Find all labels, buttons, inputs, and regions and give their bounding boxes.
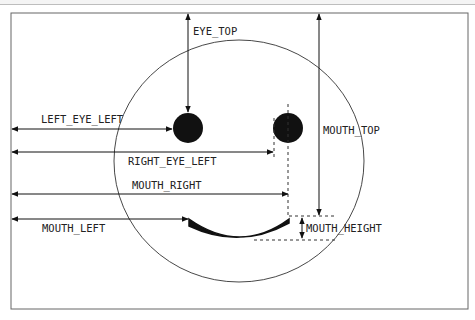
smiley-diagram: EYE_TOP MOUTH_TOP LEFT_EYE_LEFT RIGHT_EY…: [0, 0, 475, 320]
mouth-left-label: MOUTH_LEFT: [42, 222, 106, 235]
left-eye-left-label: LEFT_EYE_LEFT: [41, 113, 124, 126]
frame-box: [11, 13, 468, 309]
eye-top-label: EYE_TOP: [193, 25, 237, 38]
mouth-right-label: MOUTH_RIGHT: [132, 179, 202, 192]
mouth-top-label: MOUTH_TOP: [323, 124, 380, 137]
right-eye-left-label: RIGHT_EYE_LEFT: [128, 155, 217, 168]
mouth: [189, 219, 289, 237]
left-eye: [173, 113, 203, 143]
mouth-height-label: MOUTH_HEIGHT: [306, 222, 383, 235]
